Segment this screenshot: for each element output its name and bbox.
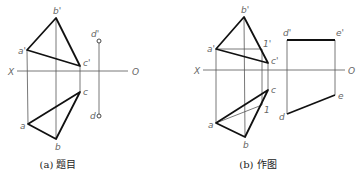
triangle-front-view [216, 17, 268, 63]
axis-label-x: X [7, 67, 15, 77]
label-b-prime: b' [53, 6, 61, 16]
label-b: b [243, 140, 249, 150]
label-d-prime: d' [283, 28, 291, 38]
label-a-prime: a' [207, 44, 215, 54]
label-c: c [271, 85, 276, 95]
connector-b [244, 17, 245, 137]
axis-label-o: O [348, 66, 355, 76]
label-b: b [55, 142, 61, 152]
label-d: d [279, 112, 285, 122]
axis-label-o: O [132, 67, 139, 77]
panel-b: X O b' a' 1' c' d' e' c 1 a b d e (b) 作图 [193, 5, 355, 170]
triangle-top-view [28, 92, 80, 139]
label-a-prime: a' [18, 46, 26, 56]
caption-a: (a) 题目 [40, 159, 77, 170]
label-e-prime: e' [336, 28, 344, 38]
label-a: a [208, 120, 214, 130]
caption-b: (b) 作图 [239, 159, 276, 170]
label-b-prime: b' [241, 5, 249, 15]
projection-drawing: X O b' a' c' d' c a b d (a) 题目 X O [0, 0, 359, 177]
point-d-prime-marker [97, 39, 101, 43]
label-a: a [20, 121, 26, 131]
label-e: e [338, 91, 344, 101]
label-c-prime: c' [83, 58, 90, 68]
label-1: 1 [264, 105, 270, 115]
triangle-top-view [216, 90, 268, 137]
label-1-prime: 1' [263, 39, 271, 49]
point-d-marker [97, 114, 101, 118]
triangle-front-view [27, 18, 80, 66]
label-c-prime: c' [271, 56, 278, 66]
line-d-e [287, 95, 335, 114]
label-d: d [90, 111, 96, 121]
panel-a: X O b' a' c' d' c a b d (a) 题目 [7, 6, 139, 170]
label-d-prime: d' [91, 29, 99, 39]
axis-label-x: X [193, 66, 201, 76]
connector-a [27, 50, 28, 124]
label-c: c [83, 87, 88, 97]
